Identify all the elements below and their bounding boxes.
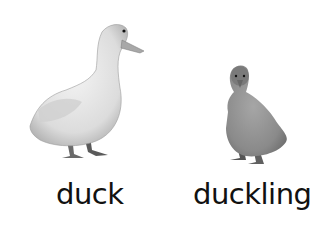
duck-image — [26, 18, 156, 168]
duck-label: duck — [56, 180, 124, 209]
duckling-image — [220, 62, 292, 167]
duckling-label: duckling — [193, 180, 311, 209]
